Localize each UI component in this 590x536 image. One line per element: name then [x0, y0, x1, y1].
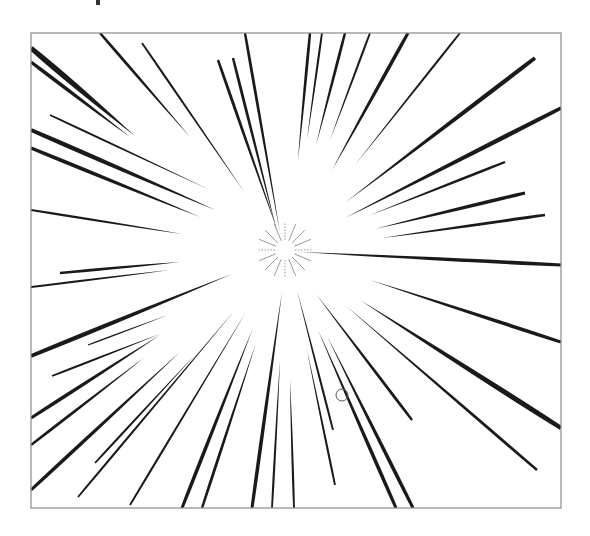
speed-line — [297, 290, 334, 430]
sparkle-ray — [294, 254, 311, 261]
speed-line — [129, 312, 246, 505]
speed-line — [201, 343, 256, 508]
sparkle-ray — [265, 230, 278, 243]
speed-line — [88, 315, 168, 346]
speed-line — [30, 352, 180, 491]
speed-line — [290, 380, 295, 508]
speed-line — [330, 33, 371, 140]
speed-line — [31, 209, 182, 234]
speed-line — [360, 300, 562, 430]
speed-line — [327, 336, 414, 509]
speed-line — [29, 46, 135, 136]
speed-line — [77, 310, 235, 498]
speed-lines-illustration — [0, 0, 590, 536]
speed-lines — [29, 32, 562, 508]
sparkle-ray — [289, 224, 296, 241]
speed-line — [345, 106, 562, 218]
picture-frame — [31, 33, 561, 508]
cropped-text-fragment — [96, 0, 100, 5]
speed-line — [271, 360, 280, 508]
sparkle-ray — [292, 257, 305, 270]
speed-line — [181, 328, 253, 509]
speed-line — [346, 57, 536, 202]
speed-line — [382, 214, 545, 238]
speed-line — [298, 33, 311, 160]
speed-line — [300, 252, 561, 266]
sparkle-ray — [294, 239, 311, 246]
speed-line — [370, 280, 561, 343]
speed-line — [332, 32, 409, 170]
speed-line — [94, 355, 195, 464]
speed-line — [50, 114, 210, 190]
sparkle-ray — [259, 239, 276, 246]
speed-line — [244, 33, 280, 233]
speed-line — [141, 42, 245, 193]
speed-line — [30, 128, 215, 210]
speed-line — [30, 61, 130, 137]
speed-line — [31, 270, 170, 288]
speed-line — [30, 147, 200, 217]
speed-line — [307, 350, 336, 485]
sparkle-ray — [274, 259, 281, 276]
speed-line — [60, 262, 180, 274]
sparkle-ray — [274, 224, 281, 241]
sparkle-ray — [289, 259, 296, 276]
sparkle-burst-icon — [257, 222, 313, 278]
speed-line — [345, 305, 538, 471]
speed-line — [217, 60, 278, 232]
sparkle-ray — [292, 230, 305, 243]
speed-line — [375, 192, 525, 229]
sparkle-ray — [265, 257, 278, 270]
sparkle-ray — [259, 254, 276, 261]
